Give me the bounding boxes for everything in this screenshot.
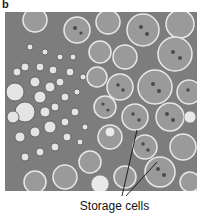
micrograph-image xyxy=(5,12,197,191)
panel-label: b xyxy=(2,0,9,10)
storage-cells-label: Storage cells xyxy=(0,199,199,213)
